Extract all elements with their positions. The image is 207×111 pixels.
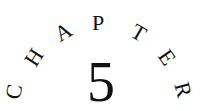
chapter-letter-t: T: [122, 18, 155, 51]
chapter-letter-c: C: [1, 78, 29, 106]
chapter-number: 5: [81, 54, 121, 110]
chapter-letter-h: H: [18, 41, 51, 74]
chapter-letter-e: E: [149, 41, 182, 74]
chapter-letter-r: R: [167, 75, 196, 104]
chapter-letter-a: A: [48, 17, 81, 50]
chapter-letter-p: P: [86, 12, 110, 36]
chapter-heading: C H A P T E R 5: [0, 0, 207, 111]
